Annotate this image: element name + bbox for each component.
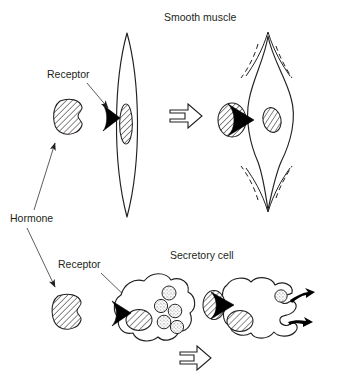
panel-title-secretory-cell: Secretory cell [170, 249, 234, 261]
secretory-cell-resting [114, 274, 194, 341]
transition-arrow-secretory [180, 346, 211, 370]
label-receptor-top: Receptor [47, 68, 90, 80]
leader-arrow-hormone-to-top-molecule [34, 143, 55, 210]
hormone-receptor-diagram: Smooth muscle Receptor Hormone Receptor … [0, 0, 339, 384]
diagram-canvas: Smooth muscle Receptor Hormone Receptor … [0, 0, 339, 384]
hormone-molecule-free-top [54, 99, 83, 134]
leader-arrow-receptor-top [87, 83, 108, 108]
hormone-molecule-free-bottom [52, 294, 81, 329]
leader-arrow-hormone-to-bottom-molecule [27, 228, 55, 287]
panel-title-smooth-muscle: Smooth muscle [164, 11, 237, 23]
label-receptor-bottom: Receptor [58, 258, 101, 270]
transition-arrow-muscle [170, 104, 202, 128]
label-hormone: Hormone [10, 212, 53, 224]
smooth-muscle-cell-relaxed [116, 33, 137, 217]
secretion-cloud [282, 277, 338, 337]
